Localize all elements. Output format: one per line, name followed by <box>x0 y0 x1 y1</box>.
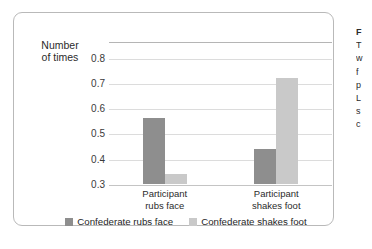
y-tick-label-0.3: 0.3 <box>91 179 105 190</box>
y-tick-label-0.7: 0.7 <box>91 77 105 88</box>
y-axis-tick-labels: 0.80.70.60.50.40.3 <box>74 42 105 184</box>
category-label-0: Participantrubs face <box>105 188 225 211</box>
legend-item-0[interactable]: Confederate rubs face <box>65 216 173 227</box>
category-label-1-line-0: Participant <box>216 188 336 200</box>
chart-legend: Confederate rubs faceConfederate shakes … <box>36 216 336 227</box>
bar-0-1 <box>254 149 276 184</box>
y-tick-label-0.6: 0.6 <box>91 103 105 114</box>
side-caption-line-0: F <box>356 26 372 39</box>
bars-layer <box>109 43 332 184</box>
side-caption-line-4: p <box>356 79 372 92</box>
legend-swatch-1 <box>189 218 197 226</box>
y-tick-label-0.8: 0.8 <box>91 52 105 63</box>
y-tick-label-0.4: 0.4 <box>91 153 105 164</box>
side-caption-line-7: c <box>356 118 372 131</box>
legend-item-1[interactable]: Confederate shakes foot <box>189 216 307 227</box>
side-caption-line-3: f <box>356 66 372 79</box>
category-label-0-line-0: Participant <box>105 188 225 200</box>
category-label-1-line-1: shakes foot <box>216 200 336 212</box>
bar-1-0 <box>165 174 187 184</box>
side-caption-line-1: T <box>356 39 372 52</box>
legend-swatch-0 <box>65 218 73 226</box>
category-label-1: Participantshakes foot <box>216 188 336 211</box>
side-caption-line-5: L <box>356 92 372 105</box>
bar-0-0 <box>143 118 165 184</box>
plot-area <box>109 42 332 184</box>
side-caption-line-2: w <box>356 52 372 65</box>
category-label-0-line-1: rubs face <box>105 200 225 212</box>
gridline-0.3 <box>109 185 332 186</box>
figure-card: Number of times 0.80.70.60.50.40.3 Parti… <box>13 12 334 226</box>
legend-label-0: Confederate rubs face <box>77 216 173 227</box>
bar-1-1 <box>276 78 298 184</box>
side-caption-line-6: s <box>356 105 372 118</box>
side-caption-clipped: FTwfpLsc <box>356 26 372 132</box>
y-tick-label-0.5: 0.5 <box>91 128 105 139</box>
x-axis-category-labels: Participantrubs faceParticipantshakes fo… <box>109 188 332 214</box>
legend-label-1: Confederate shakes foot <box>201 216 307 227</box>
